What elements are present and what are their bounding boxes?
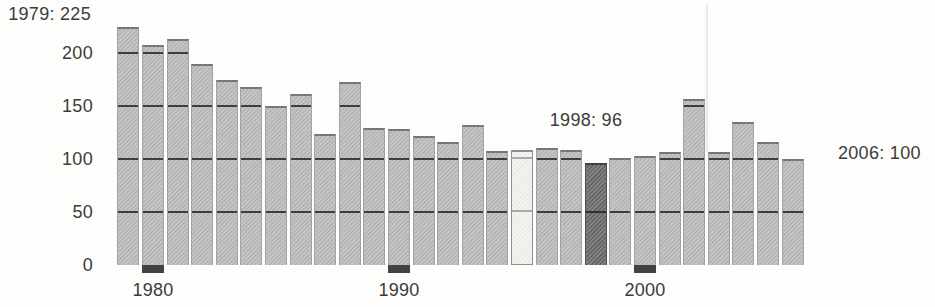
bar-2006 (782, 159, 804, 265)
bar-1987 (314, 134, 336, 265)
gridline-200 (118, 52, 138, 54)
gridline-100 (291, 158, 311, 160)
y-axis-label-50: 50 (23, 201, 93, 223)
gridline-50 (635, 211, 655, 213)
gridline-50 (561, 211, 581, 213)
gridline-100 (438, 158, 458, 160)
gridline-100 (660, 158, 680, 160)
gridline-50 (340, 211, 360, 213)
bar-2004 (732, 122, 754, 265)
bar-1990 (388, 129, 410, 265)
gridline-100 (561, 158, 581, 160)
bar-1996 (536, 148, 558, 265)
gridline-50 (168, 211, 188, 213)
annotation-first-value: 1979: 225 (6, 4, 91, 24)
gridline-50 (438, 211, 458, 213)
gridline-150 (192, 105, 212, 107)
gridline-50 (758, 211, 778, 213)
bar-1980 (142, 45, 164, 266)
bar-2003 (708, 152, 730, 265)
bar-1983 (216, 80, 238, 266)
bar-2002 (683, 99, 705, 265)
gridline-150 (118, 105, 138, 107)
bar-2001 (659, 152, 681, 265)
gridline-100 (340, 158, 360, 160)
gridline-100 (364, 158, 384, 160)
gridline-50 (487, 211, 507, 213)
x-tick-1980 (142, 265, 164, 273)
bar-1985 (265, 106, 287, 265)
gridline-150 (340, 105, 360, 107)
y-axis-label-100: 100 (23, 148, 93, 170)
gridline-50 (364, 211, 384, 213)
gridline-150 (241, 105, 261, 107)
gridline-100 (266, 158, 286, 160)
gridline-150 (168, 105, 188, 107)
x-axis-label-1980: 1980 (118, 279, 188, 301)
gridline-100 (389, 158, 409, 160)
gridline-50 (315, 211, 335, 213)
gridline-100 (512, 157, 532, 159)
gridline-50 (291, 211, 311, 213)
gridline-50 (463, 211, 483, 213)
gridline-50 (610, 211, 630, 213)
gridline-150 (217, 105, 237, 107)
annotation-last-value: 2006: 100 (838, 143, 921, 163)
y-axis-label-0: 0 (23, 254, 93, 276)
gridline-100 (143, 158, 163, 160)
gridline-50 (537, 211, 557, 213)
x-axis-label-1990: 1990 (364, 279, 434, 301)
gridline-50 (414, 211, 434, 213)
x-tick-2000 (634, 265, 656, 273)
bar-1982 (191, 64, 213, 265)
bar-1981 (167, 39, 189, 265)
gridline-100 (463, 158, 483, 160)
gridline-50 (783, 211, 803, 213)
bar-1998 (585, 163, 607, 265)
gridline-50 (192, 211, 212, 213)
gridline-200 (168, 52, 188, 54)
gridline-100 (118, 158, 138, 160)
x-axis-label-2000: 2000 (610, 279, 680, 301)
gridline-100 (217, 158, 237, 160)
gridline-50 (217, 211, 237, 213)
x-tick-1990 (388, 265, 410, 273)
y-axis-label-200: 200 (23, 42, 93, 64)
bar-chart: 1979: 225 1998: 96 2006: 100 05010015020… (0, 0, 935, 307)
scan-artifact-line (706, 4, 708, 152)
gridline-150 (143, 105, 163, 107)
gridline-100 (241, 158, 261, 160)
gridline-50 (389, 211, 409, 213)
gridline-50 (586, 211, 606, 213)
bar-1989 (363, 128, 385, 265)
gridline-50 (660, 211, 680, 213)
gridline-150 (684, 105, 704, 107)
gridline-50 (512, 210, 532, 212)
gridline-100 (487, 158, 507, 160)
gridline-50 (143, 211, 163, 213)
bar-2000 (634, 156, 656, 265)
bar-1984 (240, 87, 262, 265)
bar-1986 (290, 94, 312, 265)
bar-1992 (437, 142, 459, 265)
gridline-50 (266, 211, 286, 213)
gridline-200 (143, 52, 163, 54)
gridline-100 (709, 158, 729, 160)
bar-1994 (486, 151, 508, 266)
gridline-100 (684, 158, 704, 160)
gridline-100 (758, 158, 778, 160)
gridline-50 (733, 211, 753, 213)
bar-1999 (609, 158, 631, 265)
gridline-50 (118, 211, 138, 213)
bar-1991 (413, 136, 435, 265)
bar-2005 (757, 142, 779, 265)
bar-1997 (560, 150, 582, 266)
bar-1995 (511, 150, 533, 266)
gridline-50 (684, 211, 704, 213)
gridline-100 (315, 158, 335, 160)
gridline-100 (168, 158, 188, 160)
gridline-50 (709, 211, 729, 213)
gridline-100 (537, 158, 557, 160)
bar-1979 (117, 27, 139, 266)
bar-1988 (339, 82, 361, 265)
